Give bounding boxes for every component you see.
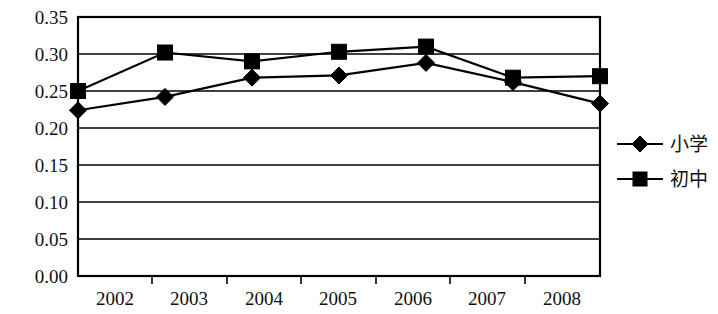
legend: 小学 初中 (617, 134, 708, 190)
diamond-marker-icon (592, 95, 609, 112)
x-axis-labels: 2002 2003 2004 2005 2006 2007 2008 (96, 288, 581, 309)
data-series-layer (70, 39, 609, 119)
y-tick-label: 0.35 (35, 7, 68, 28)
x-tick-label: 2002 (96, 288, 134, 309)
legend-label-secondary: 初中 (670, 169, 708, 190)
square-marker-icon (332, 44, 347, 59)
x-tick-label: 2008 (543, 288, 581, 309)
legend-label-primary: 小学 (670, 134, 708, 155)
diamond-marker-icon (331, 67, 348, 84)
diamond-marker-icon (632, 136, 648, 152)
y-tick-label: 0.20 (35, 118, 68, 139)
square-marker-icon (633, 172, 647, 186)
square-marker-icon (593, 69, 608, 84)
diamond-marker-icon (418, 54, 435, 71)
x-tick-label: 2003 (170, 288, 208, 309)
square-marker-icon (419, 39, 434, 54)
y-tick-label: 0.25 (35, 81, 68, 102)
y-axis-labels: 0.35 0.30 0.25 0.20 0.15 0.10 0.05 0.00 (35, 7, 68, 287)
x-tick-label: 2004 (245, 288, 284, 309)
square-marker-icon (506, 70, 521, 85)
x-tick-label: 2005 (319, 288, 357, 309)
x-axis-tickmarks (152, 276, 525, 284)
line-chart: 0.35 0.30 0.25 0.20 0.15 0.10 0.05 0.00 … (0, 0, 718, 314)
y-tick-label: 0.15 (35, 155, 68, 176)
y-tick-label: 0.00 (35, 266, 68, 287)
chart-canvas: 0.35 0.30 0.25 0.20 0.15 0.10 0.05 0.00 … (0, 0, 718, 314)
x-tick-label: 2006 (394, 288, 432, 309)
diamond-marker-icon (70, 102, 87, 119)
y-tick-label: 0.30 (35, 44, 68, 65)
diamond-marker-icon (244, 69, 261, 86)
y-tick-label: 0.05 (35, 229, 68, 250)
square-marker-icon (158, 45, 173, 60)
series-primary (70, 54, 609, 118)
square-marker-icon (245, 54, 260, 69)
x-tick-label: 2007 (468, 288, 506, 309)
y-tick-label: 0.10 (35, 192, 68, 213)
square-marker-icon (71, 84, 86, 99)
